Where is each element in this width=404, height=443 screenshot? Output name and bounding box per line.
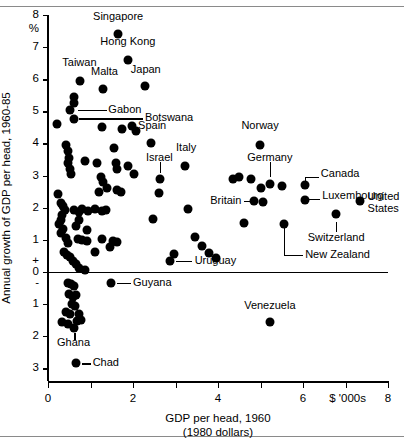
data-point-italy — [180, 161, 189, 170]
data-point — [184, 205, 193, 214]
point-label-venezuela: Venezuela — [244, 300, 295, 312]
x-tick-label: 2 — [130, 393, 136, 405]
y-tick — [43, 15, 49, 16]
y-tick — [43, 304, 49, 305]
point-label-new-zealand: New Zealand — [305, 249, 370, 261]
y-axis-unit: % — [29, 23, 39, 35]
data-point-britain — [250, 197, 259, 206]
y-tick-label: 6 — [33, 73, 39, 85]
data-point-venezuela — [265, 317, 274, 326]
data-point-botswana — [69, 115, 78, 124]
y-tick — [43, 111, 49, 112]
x-tick — [176, 381, 177, 388]
x-axis-title-main: GDP per head, 1960 — [165, 412, 270, 424]
data-point-spain — [146, 139, 155, 148]
data-point-japan — [140, 81, 149, 90]
point-label-japan: Japan — [131, 64, 161, 76]
data-point — [109, 144, 118, 153]
y-tick — [43, 336, 49, 337]
point-label-uruguay: Uruguay — [195, 255, 237, 267]
data-point — [63, 238, 72, 247]
leader-switzerland — [336, 222, 337, 232]
data-point — [90, 247, 99, 256]
leader-britain — [244, 201, 251, 202]
y-axis-title-wrap: Annual growth of GDP per head, 1960-85 — [5, 15, 19, 381]
top-divider-rule — [0, 6, 404, 7]
data-point-germany — [265, 179, 274, 188]
x-axis-title: GDP per head, 1960 (1980 dollars) — [48, 411, 388, 440]
y-tick — [43, 143, 49, 144]
point-label-gabon: Gabon — [108, 104, 141, 116]
x-tick-label: 8 — [385, 393, 391, 405]
x-tick — [261, 381, 262, 388]
x-tick — [48, 381, 49, 388]
data-point-malta — [99, 84, 108, 93]
x-tick — [303, 381, 304, 388]
data-point — [112, 238, 121, 247]
x-axis-unit: $ '000s — [329, 393, 366, 405]
data-point — [277, 181, 286, 190]
data-point — [113, 165, 122, 174]
data-point — [117, 187, 126, 196]
zero-baseline — [47, 272, 388, 274]
data-point — [54, 190, 63, 199]
leader-luxembourg — [308, 199, 320, 200]
data-point — [117, 124, 126, 133]
data-point — [67, 169, 76, 178]
data-point — [240, 219, 249, 228]
data-point — [130, 169, 139, 178]
data-point-gabon — [66, 105, 75, 114]
point-label-hong-kong: Hong Kong — [100, 36, 155, 48]
x-tick — [91, 381, 92, 388]
y-tick-label: 2 — [33, 330, 39, 342]
y-tick-label: 1 — [33, 298, 39, 310]
y-tick — [43, 368, 49, 369]
y-axis-title: Annual growth of GDP per head, 1960-85 — [0, 15, 13, 381]
data-point-guyana — [106, 279, 115, 288]
y-tick-label: 3 — [33, 170, 39, 182]
data-point — [95, 187, 104, 196]
data-point — [77, 316, 86, 325]
data-point — [72, 222, 81, 231]
point-label-switzerland: Switzerland — [308, 232, 365, 244]
chart-figure: Annual growth of GDP per head, 1960-85 8… — [0, 0, 404, 443]
point-label-italy: Italy — [176, 142, 196, 154]
point-label-united-states: UnitedStates — [368, 191, 400, 214]
point-label-britain: Britain — [210, 195, 241, 207]
y-tick-label: 7 — [33, 41, 39, 53]
x-tick — [133, 381, 134, 388]
data-point — [148, 214, 157, 223]
point-label-norway: Norway — [241, 120, 278, 132]
data-point — [93, 158, 102, 167]
x-tick — [346, 381, 347, 388]
y-tick — [43, 240, 49, 241]
x-tick — [388, 381, 389, 388]
y-tick — [43, 272, 49, 273]
data-point — [235, 173, 244, 182]
point-label-malta: Malta — [91, 66, 118, 78]
y-tick-label: 2 — [33, 202, 39, 214]
data-point — [80, 157, 89, 166]
data-point-chad — [71, 359, 80, 368]
y-tick-label: 5 — [33, 105, 39, 117]
y-tick-label: 3 — [33, 362, 39, 374]
point-label-chad: Chad — [93, 357, 119, 369]
point-label-guyana: Guyana — [133, 277, 172, 289]
data-point-israel — [156, 174, 165, 183]
y-tick — [43, 47, 49, 48]
data-point — [247, 175, 256, 184]
data-point-uruguay — [165, 256, 174, 265]
data-point-taiwan — [75, 76, 84, 85]
leader-ghana — [74, 333, 75, 339]
x-tick — [218, 381, 219, 388]
y-tick-label: 8 — [33, 9, 39, 21]
leader-newzealand-h — [284, 255, 304, 256]
data-point — [83, 237, 92, 246]
leader-newzealand-v — [284, 227, 285, 255]
data-point-ghana — [70, 324, 79, 333]
y-tick-label: - — [35, 277, 39, 289]
point-label-singapore: Singapore — [93, 11, 143, 23]
data-point — [83, 226, 92, 235]
leader-botswana — [79, 118, 144, 119]
x-tick-label: 0 — [45, 393, 51, 405]
